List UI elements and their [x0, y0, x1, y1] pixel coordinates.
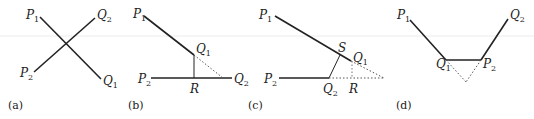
label-q1: Q1	[103, 74, 118, 90]
label-r: R	[348, 82, 358, 96]
label-q1: Q1	[353, 51, 368, 67]
caption-b: (b)	[128, 99, 144, 112]
segment-p1-q1	[410, 20, 446, 60]
segment-p1-q1	[40, 17, 101, 79]
label-p1: P1	[25, 8, 39, 24]
label-r: R	[189, 82, 199, 96]
label-p2: P2	[263, 72, 277, 88]
label-q2: Q2	[234, 72, 249, 88]
caption-c: (c)	[248, 99, 263, 112]
caption-d: (d)	[396, 99, 412, 112]
panel-a: P1 Q2 P2 Q1 (a)	[8, 8, 118, 112]
dotted-extension-p2	[466, 60, 481, 82]
label-p2: P2	[482, 57, 496, 73]
label-p1: P1	[258, 8, 272, 24]
label-p2: P2	[19, 66, 33, 82]
label-q1: Q1	[196, 42, 211, 58]
segment-p2-q2	[481, 19, 508, 60]
label-q2: Q2	[323, 82, 338, 98]
dotted-extension	[194, 55, 223, 78]
label-q2: Q2	[97, 8, 112, 24]
connector-s-q2	[329, 55, 340, 78]
caption-a: (a)	[8, 99, 23, 112]
segment-intersection-diagram: P1 Q2 P2 Q1 (a) P1 Q1 P2 Q2 R (b) P1 S Q…	[0, 0, 534, 119]
label-p1: P1	[396, 8, 410, 24]
label-q2: Q2	[510, 8, 525, 24]
label-s: S	[338, 41, 346, 55]
panel-c: P1 S Q1 P2 Q2 R (c)	[248, 8, 384, 112]
label-p1: P1	[132, 7, 146, 23]
panel-b: P1 Q1 P2 Q2 R (b)	[128, 7, 249, 112]
figure-canvas: P1 Q2 P2 Q1 (a) P1 Q1 P2 Q2 R (b) P1 S Q…	[0, 0, 534, 119]
panel-d: P1 Q1 P2 Q2 (d)	[396, 8, 525, 112]
label-p2: P2	[137, 72, 151, 88]
